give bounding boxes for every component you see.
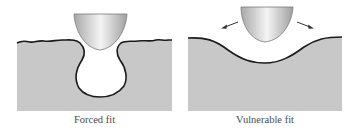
forced-fit-substrate [17, 40, 172, 111]
vulnerable-fit-substrate [188, 37, 342, 111]
arrow-up-right-icon [297, 22, 314, 29]
vulnerable-fit-caption: Vulnerable fit [188, 114, 342, 125]
vulnerable-fit-panel [188, 7, 342, 111]
forced-fit-panel [17, 14, 172, 111]
arrow-up-left-icon [221, 22, 238, 29]
fit-comparison-diagram [0, 0, 357, 130]
forced-fit-caption: Forced fit [17, 114, 172, 125]
vulnerable-fit-pick [241, 7, 293, 42]
